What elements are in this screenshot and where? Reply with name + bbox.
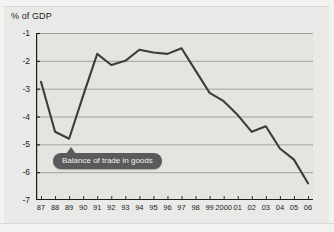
y-tick-label: -5: [22, 139, 30, 149]
figure-top-border: [0, 0, 334, 7]
x-tick-label: 89: [65, 203, 73, 212]
x-tick-label: 01: [234, 203, 242, 212]
y-tick-label: -1: [22, 28, 30, 38]
y-tick-label: -6: [22, 167, 30, 177]
x-tick-label: 97: [177, 203, 185, 212]
y-tick-label: -4: [22, 112, 30, 122]
y-tick-label: -2: [22, 56, 30, 66]
figure-right-border: [329, 0, 334, 232]
chart-title: % of GDP: [11, 11, 52, 21]
x-tick-label: 99: [205, 203, 213, 212]
chart-figure: % of GDP -1-2-3-4-5-6-7 8788899091929394…: [0, 0, 334, 232]
x-tick-label: 90: [79, 203, 87, 212]
x-tick-label: 96: [163, 203, 171, 212]
x-tick-label: 87: [37, 203, 45, 212]
plot-area: [36, 33, 313, 200]
y-axis: -1-2-3-4-5-6-7: [0, 33, 34, 200]
x-tick-label: 94: [135, 203, 143, 212]
gridlines: [36, 33, 313, 200]
x-tick-label: 03: [262, 203, 270, 212]
series-callout-label: Balance of trade in goods: [53, 153, 162, 169]
y-tick-label: -7: [22, 195, 30, 205]
x-tick-label: 98: [191, 203, 199, 212]
x-tick-label: 05: [290, 203, 298, 212]
x-tick-label: 92: [107, 203, 115, 212]
x-tick-label: 95: [149, 203, 157, 212]
x-tick-label: 88: [51, 203, 59, 212]
x-tick-label: 02: [248, 203, 256, 212]
x-tick-label: 91: [93, 203, 101, 212]
y-tick-label: -3: [22, 84, 30, 94]
chart-canvas: [36, 33, 313, 200]
figure-bottom-border: [0, 223, 334, 232]
x-tick-label: 2000: [215, 203, 232, 212]
x-tick-label: 06: [304, 203, 312, 212]
x-tick-label: 93: [121, 203, 129, 212]
x-axis: 8788899091929394959697989920000102030405…: [36, 203, 313, 221]
x-tick-label: 04: [276, 203, 284, 212]
